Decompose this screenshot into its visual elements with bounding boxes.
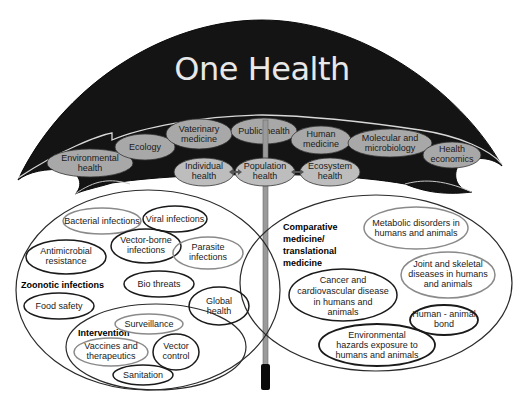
oval-label: Metabolic disorders in	[372, 218, 460, 228]
comparative-medicine-label: medicine	[283, 258, 322, 268]
oval-label: Ecology	[129, 142, 162, 152]
oval-label: Human - animal	[412, 309, 476, 319]
oval-vaccines-therapeutics: Vaccines and therapeutics	[74, 338, 148, 366]
oval-cancer-cardiovascular: Cancer and cardiovascular disease in hum…	[289, 269, 397, 321]
oval-label: humans and animals	[335, 350, 419, 360]
oval-label: health	[207, 306, 232, 316]
oval-label: Bacterial infections	[64, 216, 140, 226]
oval-global-health: Global health	[189, 287, 249, 325]
oval-label: and animals	[424, 279, 473, 289]
left-items: Bacterial infections Viral infections Ve…	[21, 206, 249, 385]
right-items: Comparative medicine/ translational medi…	[283, 207, 495, 366]
oval-label: economics	[430, 154, 474, 164]
oval-label: Vaccines and	[84, 341, 137, 351]
oval-parasite-infections: Parasite infections	[173, 237, 243, 269]
oval-label: Individual	[185, 161, 223, 171]
oval-label: Sanitation	[123, 370, 163, 380]
oval-label: diseases in humans	[408, 269, 488, 279]
zoonotic-infections-label: Zoonotic infections	[21, 280, 104, 290]
oval-ecology: Ecology	[115, 134, 175, 160]
oval-bio-threats: Bio threats	[124, 271, 194, 297]
oval-molecular-microbiology: Molecular and microbiology	[348, 129, 432, 157]
oval-vector-borne-infections: Vector-borne infections	[111, 229, 181, 263]
oval-label: health	[318, 171, 343, 181]
oval-surveillance: Surveillance	[115, 314, 183, 334]
oval-veterinary-medicine: Vaterinary medicine	[166, 119, 232, 149]
oval-label: Joint and skeletal	[413, 259, 483, 269]
oval-label: health	[192, 171, 217, 181]
oval-label: Global	[206, 296, 232, 306]
oval-label: health	[253, 171, 278, 181]
oval-label: Antimicrobial	[40, 246, 92, 256]
oval-label: Health	[439, 144, 465, 154]
oval-label: therapeutics	[86, 351, 136, 361]
oval-viral-infections: Viral infections	[143, 206, 207, 232]
oval-label: animals	[327, 307, 359, 317]
oval-label: health	[78, 163, 103, 173]
oval-label: Environmental	[61, 153, 119, 163]
oval-metabolic-disorders: Metabolic disorders in humans and animal…	[364, 207, 468, 249]
oval-antimicrobial-resistance: Antimicrobial resistance	[26, 240, 106, 274]
oval-label: Bio threats	[137, 279, 181, 289]
oval-bacterial-infections: Bacterial infections	[63, 208, 141, 234]
oval-label: medicine	[303, 139, 339, 149]
oval-joint-skeletal: Joint and skeletal diseases in humans an…	[401, 252, 495, 298]
oval-label: Vector	[163, 341, 189, 351]
oval-label: Environmental	[348, 330, 406, 340]
oval-label: resistance	[45, 256, 86, 266]
oval-label: Human	[306, 129, 335, 139]
oval-label: medicine	[181, 134, 217, 144]
one-health-umbrella-diagram: One Health Environmental health Ecology …	[0, 0, 520, 404]
oval-label: microbiology	[365, 143, 416, 153]
oval-environmental-hazards: Environmental hazards exposure to humans…	[319, 324, 435, 366]
oval-label: Viral infections	[146, 214, 205, 224]
oval-food-safety: Food safety	[24, 293, 94, 319]
oval-ecosystem-health: Ecosystem health	[300, 158, 360, 186]
oval-label: Vector-borne	[120, 235, 172, 245]
oval-health-economics: Health economics	[423, 142, 481, 168]
oval-label: hazards exposure to	[336, 340, 418, 350]
diagram-title: One Health	[174, 50, 349, 88]
oval-individual-health: Individual health	[174, 158, 234, 186]
oval-label: Food safety	[35, 301, 83, 311]
oval-sanitation: Sanitation	[113, 365, 173, 385]
oval-label: infections	[189, 252, 228, 262]
umbrella-handle	[261, 364, 270, 390]
oval-label: in humans and	[313, 297, 372, 307]
canopy-bottom-row: Individual health Population health Ecos…	[174, 158, 360, 186]
comparative-medicine-label: medicine/	[283, 234, 325, 244]
oval-label: infections	[127, 245, 166, 255]
oval-vector-control: Vector control	[153, 334, 199, 370]
oval-label: Ecosystem	[308, 161, 352, 171]
oval-population-health: Population health	[235, 158, 295, 186]
oval-label: humans and animals	[374, 228, 458, 238]
oval-human-medicine: Human medicine	[291, 126, 351, 154]
oval-label: Population	[244, 161, 287, 171]
oval-label: Cancer and	[320, 275, 367, 285]
oval-label: bond	[434, 319, 454, 329]
oval-label: control	[162, 351, 189, 361]
comparative-medicine-label: Comparative	[283, 222, 338, 232]
oval-label: Molecular and	[362, 133, 419, 143]
oval-label: Surveillance	[124, 319, 173, 329]
comparative-medicine-label: translational	[283, 246, 337, 256]
oval-label: Vaterinary	[179, 124, 220, 134]
oval-label: Parasite	[191, 242, 224, 252]
oval-label: cardiovascular disease	[297, 286, 389, 296]
